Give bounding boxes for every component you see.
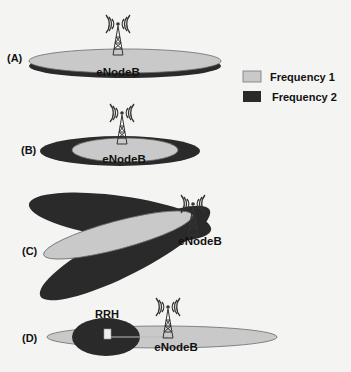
legend-swatch-frequency-2	[243, 91, 261, 102]
legend-label-frequency-1: Frequency 1	[270, 71, 335, 83]
scenario-label: (B)	[21, 144, 37, 156]
station-label: eNodeB	[96, 66, 139, 78]
station-label: eNodeB	[154, 341, 197, 353]
scenario-c: eNodeB (C)	[22, 183, 222, 315]
scenario-a: eNodeB (A)	[7, 15, 221, 78]
scenario-label: (A)	[7, 52, 23, 64]
rrh-unit	[104, 329, 111, 339]
scenario-label: (C)	[22, 245, 38, 257]
scenario-label: (D)	[22, 332, 38, 344]
legend: Frequency 1 Frequency 2	[243, 71, 337, 103]
legend-label-frequency-2: Frequency 2	[272, 91, 337, 103]
rrh-label: RRH	[95, 308, 119, 320]
station-label: eNodeB	[178, 235, 221, 247]
diagram-canvas: eNodeB (A) Frequency 1 Frequency 2 eNode…	[0, 0, 351, 372]
station-label: eNodeB	[102, 153, 145, 165]
deployment-scenarios-diagram: eNodeB (A) Frequency 1 Frequency 2 eNode…	[0, 0, 351, 372]
legend-swatch-frequency-1	[243, 71, 261, 82]
scenario-b: eNodeB (B)	[21, 104, 200, 166]
scenario-d: RRH eNodeB (D)	[22, 298, 277, 356]
